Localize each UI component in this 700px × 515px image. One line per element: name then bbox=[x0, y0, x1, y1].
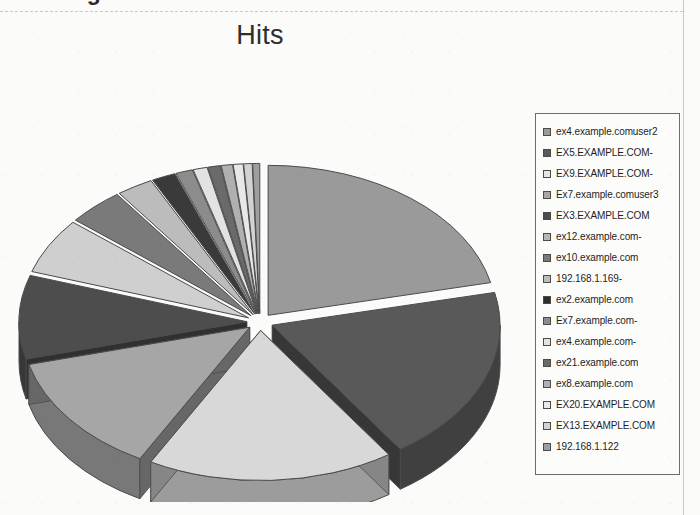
legend-item: EX13.EXAMPLE.COM bbox=[543, 415, 674, 436]
legend-item: ex8.example.com bbox=[543, 373, 674, 394]
legend-item: ex21.example.com bbox=[543, 352, 674, 373]
legend-swatch-icon bbox=[543, 338, 551, 346]
legend-item: EX9.EXAMPLE.COM- bbox=[543, 163, 674, 184]
legend-item-label: EX5.EXAMPLE.COM- bbox=[556, 142, 653, 163]
legend-item-label: 192.168.1.169- bbox=[556, 268, 622, 289]
legend-swatch-icon bbox=[543, 254, 551, 262]
page-border-right bbox=[683, 0, 684, 515]
legend-swatch-icon bbox=[543, 380, 551, 388]
legend-item-label: ex4.example.com- bbox=[556, 331, 636, 352]
pie-chart-svg bbox=[10, 72, 520, 502]
legend-item-label: ex4.example.comuser2 bbox=[556, 121, 657, 142]
legend-item-label: Ex7.example.com- bbox=[556, 310, 637, 331]
clipped-page-heading-text: Creating a Pie Chart bbox=[6, 0, 326, 6]
legend-swatch-icon bbox=[543, 359, 551, 367]
legend-item-label: ex2.example.com bbox=[556, 289, 633, 310]
legend-swatch-icon bbox=[543, 149, 551, 157]
legend-item: Ex7.example.comuser3 bbox=[543, 184, 674, 205]
legend-item-label: 192.168.1.122 bbox=[556, 436, 619, 457]
legend-item-label: ex12.example.com- bbox=[556, 226, 642, 247]
legend-item: EX3.EXAMPLE.COM bbox=[543, 205, 674, 226]
chart-title: Hits bbox=[0, 20, 520, 51]
legend-item: EX5.EXAMPLE.COM- bbox=[543, 142, 674, 163]
legend-item: Ex7.example.com- bbox=[543, 310, 674, 331]
legend-swatch-icon bbox=[543, 191, 551, 199]
legend-item: 192.168.1.169- bbox=[543, 268, 674, 289]
pie-slice-tops bbox=[19, 163, 500, 480]
legend-swatch-icon bbox=[543, 443, 551, 451]
legend-swatch-icon bbox=[543, 275, 551, 283]
legend-item-label: EX3.EXAMPLE.COM bbox=[556, 205, 650, 226]
legend-swatch-icon bbox=[543, 233, 551, 241]
legend-item-label: ex10.example.com bbox=[556, 247, 638, 268]
legend-swatch-icon bbox=[543, 422, 551, 430]
legend-item: ex2.example.com bbox=[543, 289, 674, 310]
header-divider-rule bbox=[0, 11, 684, 12]
legend-item-label: EX9.EXAMPLE.COM- bbox=[556, 163, 653, 184]
legend-swatch-icon bbox=[543, 317, 551, 325]
clipped-page-heading: Creating a Pie Chart bbox=[6, 0, 326, 9]
legend-swatch-icon bbox=[543, 212, 551, 220]
legend-item: 192.168.1.122 bbox=[543, 436, 674, 457]
pie-chart-canvas bbox=[10, 72, 520, 502]
legend-item-label: Ex7.example.comuser3 bbox=[556, 184, 659, 205]
legend-item-label: ex21.example.com bbox=[556, 352, 638, 373]
chart-legend: ex4.example.comuser2EX5.EXAMPLE.COM-EX9.… bbox=[535, 113, 680, 475]
legend-item-label: EX20.EXAMPLE.COM bbox=[556, 394, 655, 415]
legend-item-label: ex8.example.com bbox=[556, 373, 633, 394]
legend-item: ex12.example.com- bbox=[543, 226, 674, 247]
legend-item-list: ex4.example.comuser2EX5.EXAMPLE.COM-EX9.… bbox=[543, 121, 674, 457]
legend-swatch-icon bbox=[543, 170, 551, 178]
legend-item-label: EX13.EXAMPLE.COM bbox=[556, 415, 655, 436]
legend-item: ex4.example.comuser2 bbox=[543, 121, 674, 142]
pie-slice bbox=[268, 165, 491, 315]
legend-swatch-icon bbox=[543, 296, 551, 304]
legend-swatch-icon bbox=[543, 401, 551, 409]
legend-swatch-icon bbox=[543, 128, 551, 136]
legend-item: EX20.EXAMPLE.COM bbox=[543, 394, 674, 415]
legend-item: ex10.example.com bbox=[543, 247, 674, 268]
pie-chart-figure: Hits ex4.example.comuser2EX5.EXAMPLE.COM… bbox=[0, 12, 700, 515]
legend-item: ex4.example.com- bbox=[543, 331, 674, 352]
